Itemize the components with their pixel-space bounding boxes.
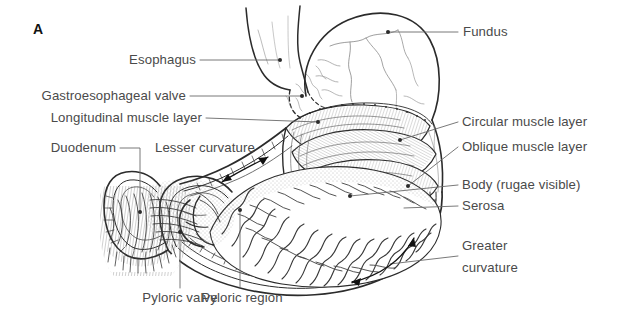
label-longitudinal-muscle-layer: Longitudinal muscle layer xyxy=(8,110,202,125)
label-pyloric-region: Pyloric region xyxy=(180,290,304,305)
stomach-anatomy-illustration xyxy=(0,0,618,329)
label-esophagus: Esophagus xyxy=(40,52,196,67)
label-oblique-muscle-layer: Oblique muscle layer xyxy=(462,139,612,154)
label-gastroesophageal-valve: Gastroesophageal valve xyxy=(10,88,186,103)
label-fundus: Fundus xyxy=(463,24,583,39)
label-greater-curvature-line1: Greater xyxy=(462,238,582,253)
label-serosa: Serosa xyxy=(462,198,582,213)
label-circular-muscle-layer: Circular muscle layer xyxy=(462,114,612,129)
label-lesser-curvature: Lesser curvature xyxy=(155,140,285,155)
label-body-rugae: Body (rugae visible) xyxy=(462,177,616,192)
label-greater-curvature-line2: curvature xyxy=(462,260,582,275)
figure-panel: A xyxy=(0,0,618,329)
label-duodenum: Duodenum xyxy=(22,140,116,155)
